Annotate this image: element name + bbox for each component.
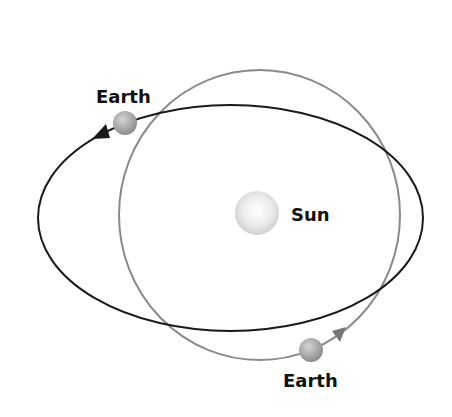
sun-label: Sun xyxy=(291,204,330,225)
direction-arrow-icon xyxy=(332,327,346,342)
direction-arrow-icon xyxy=(92,124,110,139)
earth-body-top xyxy=(113,111,137,135)
earth-label-top: Earth xyxy=(96,86,151,107)
earth-label-bottom: Earth xyxy=(283,370,338,391)
sun-body xyxy=(235,191,279,235)
earth-body-bottom xyxy=(299,338,323,362)
elliptical-orbit xyxy=(38,105,423,331)
orbit-diagram: Sun Earth Earth xyxy=(0,0,452,417)
